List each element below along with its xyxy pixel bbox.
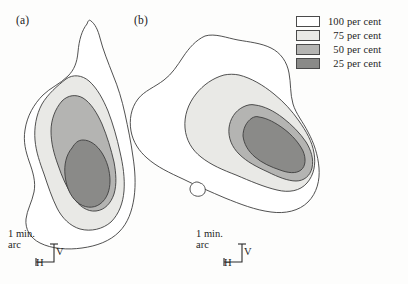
contour-b-100-island — [190, 182, 205, 196]
legend-value-75: 75 — [324, 30, 344, 41]
scalebar-a-vertical-label: V — [56, 246, 64, 257]
legend-label-100: 100per cent — [324, 16, 381, 27]
legend-unit-50: per cent — [347, 44, 381, 55]
panel-b-label: (b) — [134, 14, 148, 26]
legend: 100per cent 75per cent 50per cent 25per … — [296, 15, 381, 70]
legend-unit-100: per cent — [347, 16, 381, 27]
scalebar-b-vertical-label: V — [244, 246, 252, 257]
panel-a-label: (a) — [16, 14, 29, 26]
legend-label-50: 50per cent — [324, 44, 381, 55]
panel-a-contour-group — [24, 20, 135, 249]
legend-swatch-25 — [296, 58, 320, 69]
legend-item-75: 75per cent — [296, 29, 381, 42]
legend-unit-25: per cent — [347, 58, 381, 69]
contour-figure: (a) (b) 100per cent 75per cent 50per cen… — [0, 0, 408, 284]
scalebar-panel-a: 1 min. arc V H — [8, 228, 82, 270]
scalebar-b-axes-icon — [196, 228, 270, 270]
legend-swatch-75 — [296, 30, 320, 41]
legend-value-50: 50 — [324, 44, 344, 55]
legend-label-25: 25per cent — [324, 58, 381, 69]
legend-unit-75: per cent — [347, 30, 381, 41]
scalebar-a-horizontal-label: H — [36, 257, 44, 268]
legend-swatch-100 — [296, 16, 320, 27]
legend-item-50: 50per cent — [296, 43, 381, 56]
legend-value-100: 100 — [324, 16, 344, 27]
scalebar-b-horizontal-label: H — [224, 257, 232, 268]
legend-value-25: 25 — [324, 58, 344, 69]
legend-label-75: 75per cent — [324, 30, 381, 41]
panel-b-contour-group — [130, 35, 319, 213]
legend-swatch-50 — [296, 44, 320, 55]
legend-item-25: 25per cent — [296, 57, 381, 70]
scalebar-panel-b: 1 min. arc V H — [196, 228, 270, 270]
scalebar-a-axes-icon — [8, 228, 82, 270]
legend-item-100: 100per cent — [296, 15, 381, 28]
